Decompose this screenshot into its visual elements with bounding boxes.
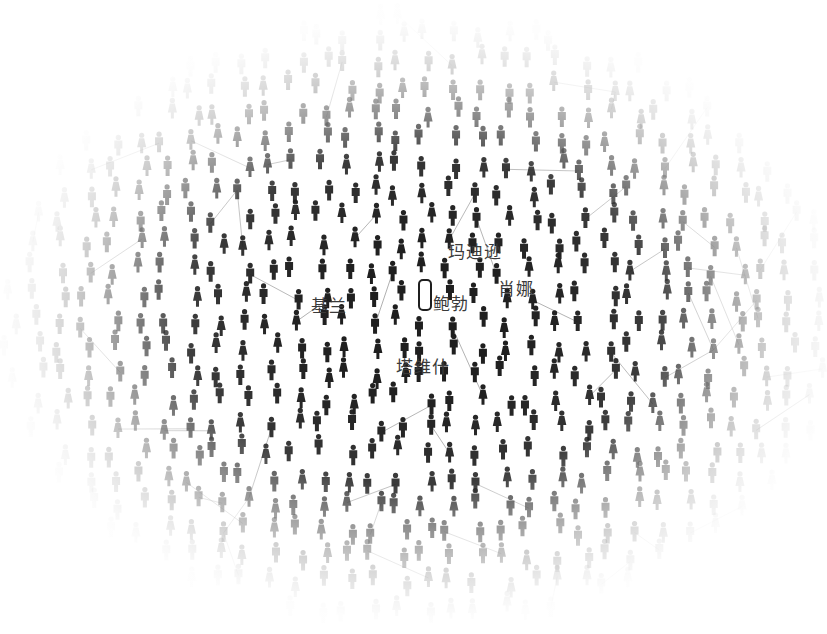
person-icon bbox=[155, 132, 163, 153]
person-icon bbox=[624, 411, 632, 432]
person-icon bbox=[415, 496, 424, 517]
person-icon bbox=[572, 231, 580, 252]
person-icon bbox=[26, 252, 34, 273]
person-icon bbox=[758, 337, 766, 358]
person-icon bbox=[784, 290, 792, 311]
person-icon bbox=[322, 395, 330, 416]
person-icon bbox=[476, 522, 484, 543]
person-icon bbox=[445, 543, 453, 564]
person-icon bbox=[635, 234, 643, 255]
person-icon bbox=[522, 550, 531, 571]
person-icon bbox=[196, 445, 204, 466]
person-icon bbox=[600, 227, 608, 248]
person-icon bbox=[609, 183, 617, 204]
person-icon bbox=[372, 203, 381, 224]
label-tavish: 塔维什 bbox=[396, 353, 450, 378]
person-icon bbox=[793, 200, 801, 221]
person-icon bbox=[113, 417, 122, 438]
person-icon bbox=[312, 24, 320, 45]
person-icon bbox=[445, 442, 454, 463]
person-icon bbox=[164, 155, 172, 176]
person-icon bbox=[417, 228, 426, 249]
person-icon bbox=[193, 286, 202, 307]
person-icon bbox=[524, 436, 532, 457]
person-icon bbox=[389, 382, 397, 403]
person-icon bbox=[570, 281, 578, 302]
person-icon bbox=[270, 517, 279, 538]
person-icon bbox=[375, 151, 384, 172]
person-icon bbox=[214, 565, 222, 586]
person-icon bbox=[163, 184, 171, 205]
person-icon bbox=[106, 386, 114, 407]
person-icon bbox=[212, 52, 220, 73]
person-icon bbox=[286, 148, 294, 169]
person-icon bbox=[585, 547, 593, 568]
person-icon bbox=[550, 358, 559, 379]
person-icon bbox=[114, 135, 122, 156]
person-icon bbox=[662, 260, 671, 281]
person-icon bbox=[625, 81, 634, 102]
person-icon bbox=[260, 314, 269, 335]
person-icon bbox=[711, 512, 720, 533]
social-network-diagram: 玛迪逊 肖娜 鲍勃 基兰 塔维什 bbox=[0, 0, 827, 634]
person-icon bbox=[782, 417, 790, 438]
person-icon bbox=[505, 205, 514, 226]
person-icon bbox=[663, 279, 672, 300]
person-icon bbox=[471, 362, 479, 383]
person-icon bbox=[532, 131, 540, 152]
person-icon bbox=[270, 471, 278, 492]
person-icon bbox=[348, 568, 356, 589]
person-icon bbox=[374, 57, 382, 78]
person-icon bbox=[182, 471, 191, 492]
person-icon bbox=[134, 461, 142, 482]
person-icon bbox=[763, 161, 771, 182]
person-icon bbox=[238, 433, 246, 454]
person-icon bbox=[449, 205, 457, 226]
person-icon bbox=[36, 331, 44, 352]
person-icon bbox=[392, 595, 401, 616]
person-icon bbox=[390, 493, 398, 514]
person-icon bbox=[417, 252, 426, 273]
person-icon bbox=[752, 419, 760, 440]
person-icon bbox=[88, 187, 96, 208]
person-icon bbox=[56, 154, 65, 175]
person-icon bbox=[342, 154, 351, 175]
person-icon bbox=[610, 202, 618, 223]
person-icon bbox=[315, 434, 323, 455]
person-icon bbox=[373, 338, 382, 359]
person-icon bbox=[84, 386, 92, 407]
person-icon bbox=[677, 393, 685, 414]
person-icon bbox=[581, 253, 589, 274]
person-icon bbox=[710, 494, 718, 515]
person-icon bbox=[625, 260, 634, 281]
label-shauna: 肖娜 bbox=[498, 275, 534, 300]
person-icon bbox=[131, 522, 140, 543]
person-icon bbox=[313, 411, 321, 432]
person-icon bbox=[653, 489, 662, 510]
person-icon bbox=[707, 308, 716, 329]
person-icon bbox=[742, 182, 750, 203]
person-icon bbox=[551, 44, 559, 65]
person-icon bbox=[531, 365, 539, 386]
person-icon bbox=[392, 473, 400, 494]
person-icon bbox=[207, 104, 216, 125]
person-icon bbox=[291, 199, 300, 220]
person-icon bbox=[193, 365, 202, 386]
person-icon bbox=[325, 368, 334, 389]
person-icon bbox=[582, 135, 590, 156]
person-icon bbox=[28, 231, 37, 252]
person-icon bbox=[679, 308, 688, 329]
person-icon bbox=[319, 235, 328, 256]
person-icon bbox=[575, 159, 583, 180]
person-icon bbox=[735, 471, 744, 492]
person-icon bbox=[559, 446, 567, 467]
person-icon bbox=[91, 207, 100, 228]
person-icon bbox=[375, 122, 383, 143]
person-icon bbox=[627, 391, 635, 412]
person-icon bbox=[212, 332, 221, 353]
person-icon bbox=[572, 499, 580, 520]
person-icon bbox=[319, 603, 327, 624]
person-icon bbox=[761, 226, 769, 247]
person-icon bbox=[578, 177, 586, 198]
person-icon bbox=[557, 410, 566, 431]
